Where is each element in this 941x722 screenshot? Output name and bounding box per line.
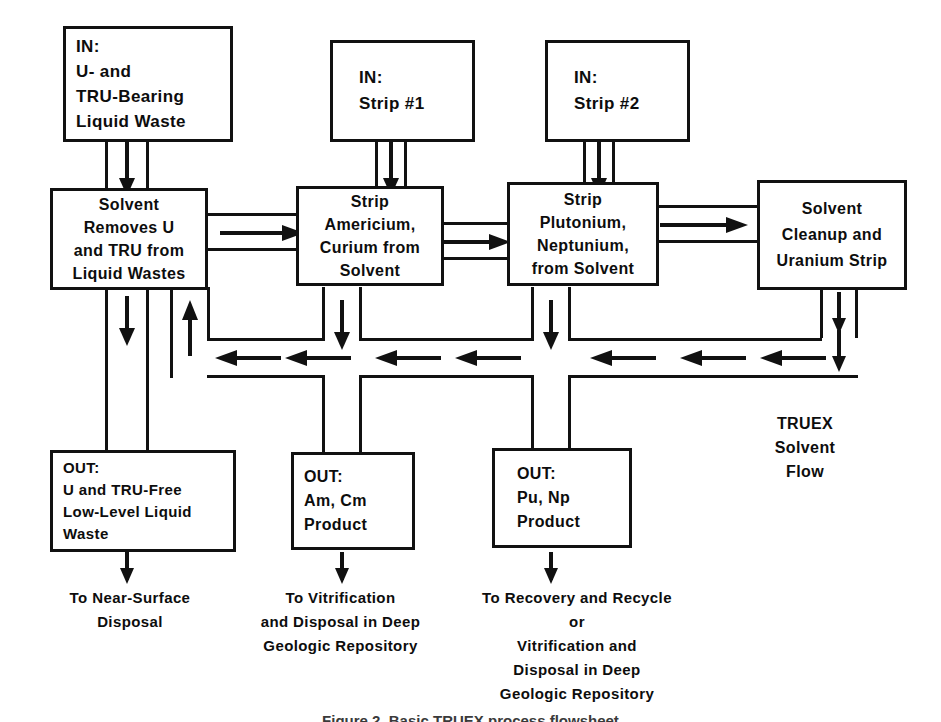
box-out-low-level-waste[interactable]: OUT: U and TRU-Free Low-Level Liquid Was… [50,450,236,552]
box-in-liquid-waste-line-2: U- and [66,59,230,84]
box-strip-pu-np-line-4: from Solvent [510,257,656,280]
pipe-solvent-recycle-return [170,338,822,378]
destination-recovery-line-3: Vitrification and [452,634,702,658]
box-strip-am-cm-line-1: Strip [299,190,441,213]
box-out-pu-np-line-1: OUT: [495,462,629,486]
box-in-strip-2-line-1: IN: [548,65,687,91]
box-in-liquid-waste[interactable]: IN: U- and TRU-Bearing Liquid Waste [63,26,233,142]
box-strip-am-cm-line-2: Americium, [299,213,441,236]
destination-recovery-line-4: Disposal in Deep [452,658,702,682]
box-solvent-extraction-line-3: and TRU from [53,239,205,262]
figure-caption: Figure 2. Basic TRUEX process flowsheet [0,712,941,722]
box-in-strip-2-line-2: Strip #2 [548,91,687,117]
box-out-low-level-waste-line-4: Waste [53,523,233,545]
destination-near-surface-line-1: To Near-Surface [35,586,225,610]
box-solvent-extraction-line-1: Solvent [53,193,205,216]
box-in-strip-2[interactable]: IN: Strip #2 [545,40,690,142]
box-out-pu-np-line-3: Product [495,510,629,534]
stem-out-waste [126,552,129,580]
mask-elbow-open-left [173,341,213,375]
mask-crossing-pu-np-drop [534,336,568,381]
mask-crossing-am-cm-drop [325,336,359,381]
box-strip-pu-np[interactable]: Strip Plutonium, Neptunium, from Solvent [507,182,659,286]
box-in-liquid-waste-line-3: TRU-Bearing [66,84,230,109]
flowsheet-canvas: IN: U- and TRU-Bearing Liquid Waste IN: … [0,0,941,722]
box-in-liquid-waste-line-4: Liquid Waste [66,109,230,134]
pipe-solvent-recycle-upleg [170,287,210,342]
label-truex-solvent-flow-line-1: TRUEX [730,412,880,436]
box-solvent-extraction-line-2: Removes U [53,216,205,239]
destination-near-surface-disposal: To Near-Surface Disposal [35,586,225,634]
box-solvent-extraction-line-4: Liquid Wastes [53,262,205,285]
destination-recovery-recycle: To Recovery and Recycle or Vitrification… [452,586,702,706]
box-out-pu-np-line-2: Pu, Np [495,486,629,510]
destination-vitrification-line-1: To Vitrification [228,586,453,610]
destination-vitrification-disposal: To Vitrification and Disposal in Deep Ge… [228,586,453,658]
box-out-low-level-waste-line-1: OUT: [53,457,233,479]
box-solvent-extraction[interactable]: Solvent Removes U and TRU from Liquid Wa… [50,188,208,290]
box-solvent-cleanup-line-2: Cleanup and [760,222,904,248]
destination-near-surface-line-2: Disposal [35,610,225,634]
box-strip-am-cm[interactable]: Strip Americium, Curium from Solvent [296,186,444,286]
box-in-strip-1-line-1: IN: [333,65,472,91]
stem-out-pu-np [550,552,553,580]
destination-recovery-line-5: Geologic Repository [452,682,702,706]
box-out-pu-np[interactable]: OUT: Pu, Np Product [492,448,632,548]
box-strip-pu-np-line-2: Plutonium, [510,211,656,234]
box-out-am-cm[interactable]: OUT: Am, Cm Product [291,452,415,550]
box-strip-am-cm-line-4: Solvent [299,259,441,282]
box-out-am-cm-line-3: Product [294,513,412,537]
destination-vitrification-line-3: Geologic Repository [228,634,453,658]
box-solvent-cleanup-line-1: Solvent [760,196,904,222]
box-strip-am-cm-line-3: Curium from [299,236,441,259]
box-out-am-cm-line-2: Am, Cm [294,489,412,513]
label-truex-solvent-flow: TRUEX Solvent Flow [730,412,880,484]
box-in-strip-1-line-2: Strip #1 [333,91,472,117]
mask-elbow-open-right [823,341,859,375]
stem-out-am-cm [341,552,344,580]
destination-recovery-line-2: or [452,610,702,634]
box-in-liquid-waste-line-1: IN: [66,34,230,59]
box-out-low-level-waste-line-2: U and TRU-Free [53,479,233,501]
pipe-pu-np-to-cleanup [645,205,765,243]
box-out-am-cm-line-1: OUT: [294,465,412,489]
box-out-low-level-waste-line-3: Low-Level Liquid [53,501,233,523]
destination-vitrification-line-2: and Disposal in Deep [228,610,453,634]
mask-crossing-solvent-drop [108,336,146,381]
label-truex-solvent-flow-line-3: Flow [730,460,880,484]
box-in-strip-1[interactable]: IN: Strip #1 [330,40,475,142]
destination-recovery-line-1: To Recovery and Recycle [452,586,702,610]
box-solvent-cleanup-line-3: Uranium Strip [760,248,904,274]
box-strip-pu-np-line-1: Strip [510,188,656,211]
label-truex-solvent-flow-line-2: Solvent [730,436,880,460]
box-strip-pu-np-line-3: Neptunium, [510,234,656,257]
box-solvent-cleanup[interactable]: Solvent Cleanup and Uranium Strip [757,180,907,290]
